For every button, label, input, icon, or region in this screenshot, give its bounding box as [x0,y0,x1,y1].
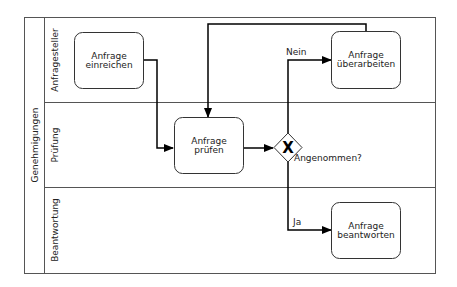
bpmn-diagram: Genehmigungen Anfragesteller Prüfung Bea… [0,0,457,287]
lane-label-anfragesteller: Anfragesteller [50,28,60,92]
lane-label-pruefung: Prüfung [50,128,60,163]
task-label: prüfen [194,145,224,155]
gateway-label: Angenommen? [294,153,362,163]
task-label: einreichen [85,60,132,70]
flow-label-nein: Nein [286,47,306,57]
lane-label-beantwortung: Beantwortung [50,198,60,262]
task-label: beantworten [337,230,394,240]
flow-label-ja: Ja [292,217,301,227]
lane-beantwortung: Beantwortung [50,198,60,262]
task-anfrage-beantworten[interactable]: Anfrage beantworten [332,203,401,259]
task-anfrage-pruefen[interactable]: Anfrage prüfen [175,118,244,174]
pool-label: Genehmigungen [30,108,40,183]
task-anfrage-ueberarbeiten[interactable]: Anfrage überarbeiten [332,32,401,89]
gateway-x-icon: X [282,139,294,157]
task-label: überarbeiten [337,59,395,69]
task-anfrage-einreichen[interactable]: Anfrage einreichen [75,33,144,89]
